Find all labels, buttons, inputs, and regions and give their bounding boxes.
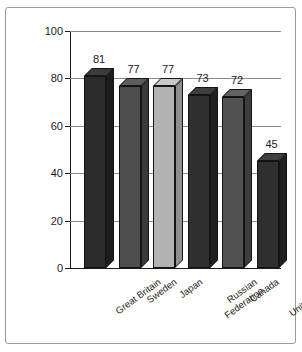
bar-great-britain: 81 bbox=[84, 76, 106, 268]
y-tick-label-60: 60 bbox=[51, 120, 63, 132]
bar-united-states: 45 bbox=[257, 161, 279, 268]
y-tick-80 bbox=[65, 78, 70, 79]
bar-side-face bbox=[141, 78, 149, 268]
bar-japan: 77 bbox=[153, 86, 175, 268]
bar-side-face bbox=[279, 153, 287, 268]
y-axis-tick-labels: 020406080100 bbox=[38, 31, 63, 268]
bar-side-face bbox=[106, 68, 114, 268]
y-tick-40 bbox=[65, 173, 70, 174]
plot-area: 817777737245 bbox=[70, 31, 281, 268]
bar-front-face bbox=[222, 97, 244, 268]
bar-front-face bbox=[84, 76, 106, 268]
bar-russian-federation: 73 bbox=[188, 95, 210, 268]
y-tick-20 bbox=[65, 221, 70, 222]
y-axis-line bbox=[70, 31, 71, 268]
bar-sweden: 77 bbox=[119, 86, 141, 268]
y-tick-label-0: 0 bbox=[57, 262, 63, 274]
y-tick-0 bbox=[65, 268, 70, 269]
bar-side-face bbox=[175, 78, 183, 268]
x-axis-line bbox=[70, 268, 281, 269]
bar-front-face bbox=[188, 95, 210, 268]
bar-front-face bbox=[257, 161, 279, 268]
bar-value-label: 45 bbox=[252, 138, 292, 150]
y-tick-label-20: 20 bbox=[51, 215, 63, 227]
bar-front-face bbox=[119, 86, 141, 268]
y-tick-label-80: 80 bbox=[51, 72, 63, 84]
bar-side-face bbox=[244, 89, 252, 268]
bar-side-face bbox=[210, 87, 218, 268]
y-tick-label-40: 40 bbox=[51, 167, 63, 179]
gridline-100 bbox=[70, 31, 281, 32]
bar-canada: 72 bbox=[222, 97, 244, 268]
chart-figure: Percentage of Health Expenditures Paid b… bbox=[0, 0, 302, 352]
bar-front-face bbox=[153, 86, 175, 268]
y-tick-label-100: 100 bbox=[45, 25, 63, 37]
y-tick-100 bbox=[65, 31, 70, 32]
bar-value-label: 72 bbox=[217, 74, 257, 86]
y-tick-60 bbox=[65, 126, 70, 127]
